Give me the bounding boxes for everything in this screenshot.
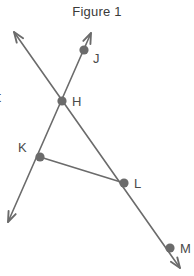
- lines-group: [8, 32, 180, 268]
- point-J: [79, 45, 88, 54]
- label-L: L: [134, 176, 141, 191]
- label-H: H: [72, 94, 81, 109]
- label-M: M: [180, 241, 191, 256]
- geometry-diagram: JHKLM: [0, 0, 194, 276]
- points-group: [35, 45, 174, 252]
- point-labels-group: JHKLM: [18, 51, 191, 256]
- ray-J-through-H-to-lowerleft: [8, 33, 91, 222]
- label-J: J: [93, 51, 100, 66]
- point-L: [119, 178, 128, 187]
- figure-container: Figure 1 t JHKLM: [0, 0, 194, 276]
- label-K: K: [18, 140, 27, 155]
- point-M: [165, 243, 174, 252]
- point-K: [35, 152, 44, 161]
- point-H: [57, 96, 66, 105]
